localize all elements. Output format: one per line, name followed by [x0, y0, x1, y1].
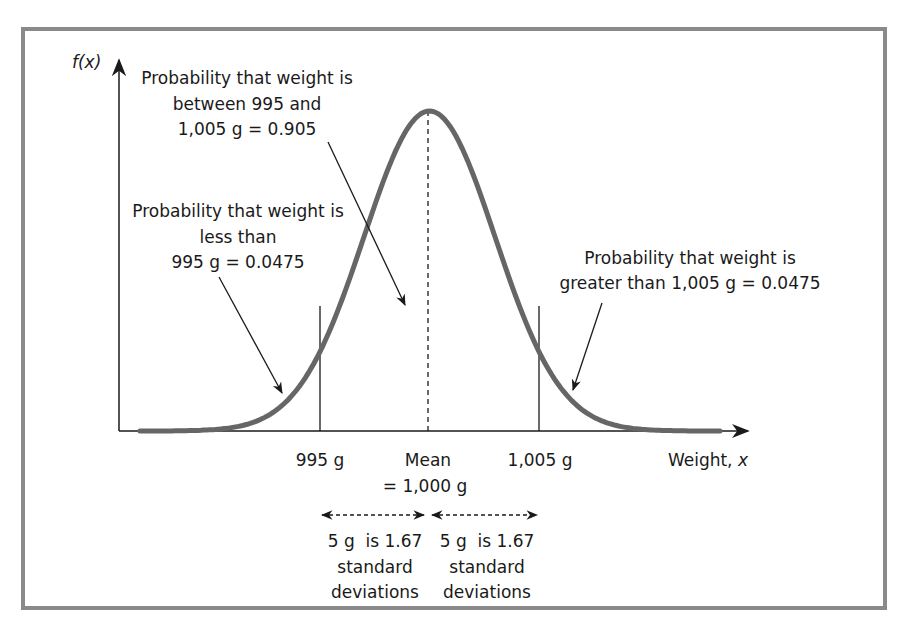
std-dev-left-note: 5 g is 1.67 standard deviations	[328, 531, 423, 602]
annotation-line: 1,005 g = 0.905	[178, 119, 317, 139]
between-annotation: Probability that weight is between 995 a…	[141, 68, 353, 139]
note-line: deviations	[331, 582, 419, 602]
less-than-annotation: Probability that weight is less than 995…	[132, 201, 344, 272]
annotation-line: between 995 and	[173, 94, 322, 114]
annotation-line: Probability that weight is	[141, 68, 353, 88]
annotation-line: Probability that weight is	[584, 248, 796, 268]
annotation-line: 995 g = 0.0475	[171, 252, 304, 272]
normal-distribution-figure: f(x) Probability that weight is between …	[0, 0, 911, 639]
std-dev-right-note: 5 g is 1.67 standard deviations	[440, 531, 535, 602]
figure-frame	[23, 29, 885, 608]
annotation-line: less than	[200, 227, 277, 247]
annotation-line: Probability that weight is	[132, 201, 344, 221]
annotation-line: greater than 1,005 g = 0.0475	[559, 273, 820, 293]
greater-than-annotation: Probability that weight is greater than …	[559, 248, 820, 293]
note-line: 5 g is 1.67	[440, 531, 535, 551]
note-line: 5 g is 1.67	[328, 531, 423, 551]
greater-than-arrow	[573, 303, 602, 390]
note-line: standard	[449, 557, 524, 577]
y-axis-label: f(x)	[72, 52, 101, 72]
tick-lower: 995 g	[296, 450, 345, 470]
tick-mean-value: = 1,000 g	[383, 476, 468, 496]
between-arrow	[328, 142, 405, 305]
tick-upper: 1,005 g	[508, 450, 573, 470]
x-axis-label: Weight, x	[668, 450, 749, 470]
note-line: standard	[337, 557, 412, 577]
tick-mean: Mean	[405, 450, 451, 470]
note-line: deviations	[443, 582, 531, 602]
less-than-arrow	[219, 277, 282, 393]
